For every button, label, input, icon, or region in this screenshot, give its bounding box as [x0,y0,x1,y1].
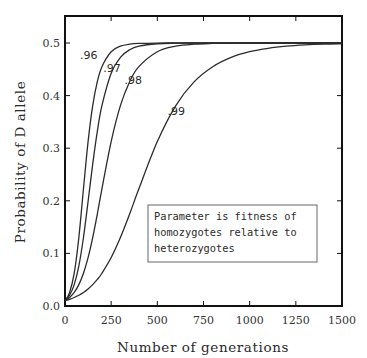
y-tick-label: 0.0 [43,300,61,313]
x-tick-label: 1000 [236,314,264,327]
y-tick-label: 0.3 [43,142,61,155]
x-tick-label: 1500 [328,314,356,327]
x-axis-title: Number of generations [117,339,289,355]
series-labels: .96.97.98.99 [80,49,185,118]
x-tick-label: 1250 [282,314,310,327]
legend-line-3: heterozygotes [154,242,235,254]
legend: Parameter is fitness of homozygotes rela… [148,205,317,262]
y-axis-title: Probability of D allele [12,81,28,244]
x-tick-label: 250 [101,314,122,327]
x-tick-label: 500 [147,314,168,327]
series-label-99: .99 [167,105,185,118]
legend-line-2: homozygotes relative to [154,226,297,238]
legend-line-1: Parameter is fitness of [154,210,297,222]
allele-frequency-chart: 0250500750100012501500 0.00.10.20.30.40.… [0,0,367,358]
series-label-96: .96 [80,49,98,62]
x-tick-label: 0 [62,314,69,327]
y-tick-label: 0.1 [43,247,61,260]
y-tick-label: 0.5 [43,37,61,50]
y-tick-label: 0.2 [43,195,61,208]
x-tick-label: 750 [193,314,214,327]
series-label-98: .98 [124,74,142,87]
y-axis: 0.00.10.20.30.40.5 [43,37,343,313]
series-label-97: .97 [103,62,121,75]
y-tick-label: 0.4 [43,90,61,103]
